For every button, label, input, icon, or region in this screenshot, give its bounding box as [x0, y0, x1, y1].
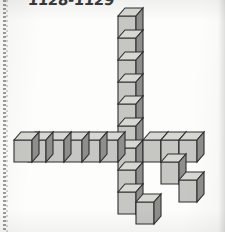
cube-figure-svg [0, 0, 225, 232]
worksheet-page: 1128-1129 [0, 0, 225, 232]
cube-group-bottom-cube [136, 194, 161, 224]
isometric-cube-figure [0, 0, 225, 232]
cube-group-left-arm [14, 132, 125, 162]
handwritten-page-label: 1128-1129 [27, 0, 115, 9]
cube-group-vertical-column [118, 8, 143, 214]
